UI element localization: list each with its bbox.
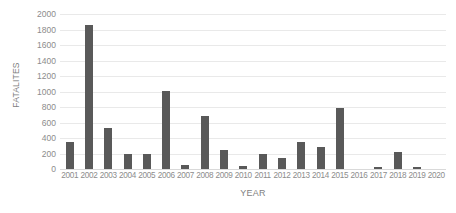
bar-slot <box>330 14 349 169</box>
x-axis-tick-label: 2002 <box>79 171 98 185</box>
y-axis-tick-label: 600 <box>42 118 56 128</box>
x-axis-tick-label: 2003 <box>99 171 118 185</box>
x-axis-tick-label: 2012 <box>272 171 291 185</box>
bar[interactable] <box>394 152 402 169</box>
bar[interactable] <box>413 167 421 169</box>
bar-slot <box>311 14 330 169</box>
bar[interactable] <box>104 128 112 169</box>
bar-slot <box>253 14 272 169</box>
x-axis-tick-label: 2004 <box>118 171 137 185</box>
y-axis-tick-label: 1600 <box>37 40 56 50</box>
x-axis-tick-label: 2018 <box>388 171 407 185</box>
x-axis-tick-label: 2019 <box>407 171 426 185</box>
x-axis-tick-labels: 2001200220032004200520062007200820092010… <box>60 171 446 185</box>
y-axis-tick-label: 1000 <box>37 87 56 97</box>
bar-slot <box>176 14 195 169</box>
bar[interactable] <box>124 154 132 170</box>
bar-slot <box>369 14 388 169</box>
x-axis-tick-label: 2001 <box>60 171 79 185</box>
bar-slot <box>137 14 156 169</box>
y-axis-tick-label: 800 <box>42 102 56 112</box>
bar-slot <box>407 14 426 169</box>
x-axis-tick-label: 2008 <box>195 171 214 185</box>
bar[interactable] <box>374 167 382 169</box>
bar[interactable] <box>239 166 247 169</box>
x-axis-tick-label: 2015 <box>330 171 349 185</box>
bar[interactable] <box>66 142 74 169</box>
bar[interactable] <box>297 142 305 169</box>
bar-slot <box>60 14 79 169</box>
bar-slot <box>99 14 118 169</box>
bar[interactable] <box>278 158 286 169</box>
bar-slot <box>79 14 98 169</box>
y-axis-tick-label: 2000 <box>37 9 56 19</box>
bar-slot <box>427 14 446 169</box>
axis-baseline <box>60 169 446 170</box>
x-axis-tick-label: 2016 <box>349 171 368 185</box>
y-axis-tick-label: 1800 <box>37 25 56 35</box>
bar-slot <box>388 14 407 169</box>
y-axis-title-label: FATALITES <box>11 62 21 107</box>
y-axis-tick-label: 200 <box>42 149 56 159</box>
x-axis-tick-label: 2013 <box>292 171 311 185</box>
y-axis-tick-labels: 2000180016001400120010008006004002000 <box>24 14 56 169</box>
bar[interactable] <box>201 116 209 169</box>
bar-slot <box>214 14 233 169</box>
x-axis-tick-label: 2005 <box>137 171 156 185</box>
bar[interactable] <box>336 108 344 169</box>
y-axis-title: FATALITES <box>9 0 23 170</box>
bar-slot <box>349 14 368 169</box>
x-axis-tick-label: 2006 <box>156 171 175 185</box>
bar-slot <box>272 14 291 169</box>
y-axis-tick-label: 1400 <box>37 56 56 66</box>
plot-area <box>60 14 446 169</box>
y-axis-tick-label: 0 <box>51 164 56 174</box>
bar[interactable] <box>162 91 170 169</box>
x-axis-tick-label: 2011 <box>253 171 272 185</box>
x-axis-tick-label: 2017 <box>369 171 388 185</box>
bar-slot <box>195 14 214 169</box>
bar-chart: FATALITES 200018001600140012001000800600… <box>0 0 456 213</box>
bar-slot <box>118 14 137 169</box>
x-axis-tick-label: 2014 <box>311 171 330 185</box>
bar[interactable] <box>181 165 189 169</box>
bar-slot <box>156 14 175 169</box>
x-axis-tick-label: 2010 <box>234 171 253 185</box>
bar[interactable] <box>143 154 151 169</box>
bar[interactable] <box>85 25 93 169</box>
x-axis-title: YEAR <box>60 188 446 198</box>
x-axis-tick-label: 2009 <box>214 171 233 185</box>
y-axis-tick-label: 400 <box>42 133 56 143</box>
bar[interactable] <box>220 150 228 169</box>
bar[interactable] <box>259 154 267 169</box>
y-axis-tick-label: 1200 <box>37 71 56 81</box>
bar-series <box>60 14 446 169</box>
bar-slot <box>234 14 253 169</box>
bar-slot <box>292 14 311 169</box>
bar[interactable] <box>317 147 325 169</box>
x-axis-tick-label: 2007 <box>176 171 195 185</box>
x-axis-tick-label: 2020 <box>427 171 446 185</box>
